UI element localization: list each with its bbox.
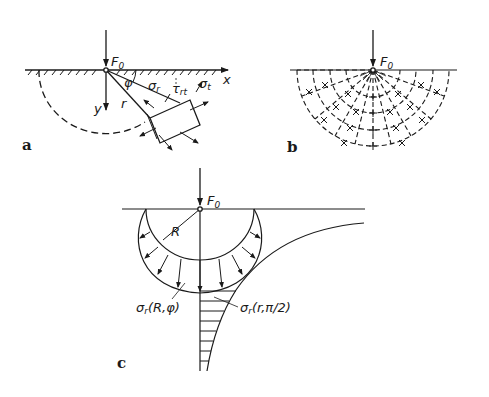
sigma-r-label: σr (148, 78, 161, 94)
angle-ray (106, 70, 180, 103)
panel-b-label: b (287, 138, 298, 156)
panel-a-labels: F0 x y r φ σr τrt σt a (22, 54, 231, 154)
y-axis-label: y (93, 101, 102, 116)
panel-b-labels: F0 b (287, 54, 393, 156)
panel-c (122, 168, 365, 371)
radius-label-c: R (171, 224, 180, 239)
panel-c-labels: F0 R σr(R,φ) σr(r,π/2) c (117, 193, 291, 372)
panel-a (25, 30, 228, 150)
force-label-b: F0 (380, 54, 393, 71)
intersection-crosses (306, 82, 440, 150)
sigma-r-circle-label: σr(R,φ) (136, 300, 180, 316)
tau-rt-label: τrt (172, 81, 188, 97)
stress-element (150, 100, 200, 143)
origin-point (104, 68, 108, 72)
sigma-r-axis-label: σr(r,π/2) (240, 300, 291, 316)
force-label-a: F0 (111, 54, 124, 71)
x-axis-label: x (222, 72, 231, 87)
figure-canvas: F0 x y r φ σr τrt σt a (0, 0, 489, 397)
radius-label: r (121, 96, 128, 111)
panel-a-label: a (22, 136, 32, 154)
panel-c-label: c (117, 354, 126, 372)
force-label-c: F0 (207, 193, 220, 210)
panel-b (290, 30, 457, 150)
axial-stress-curve (207, 223, 364, 371)
radial-lines (297, 70, 444, 146)
sigma-t-label: σt (199, 76, 211, 92)
angle-label: φ (124, 75, 133, 90)
radius-line-c (163, 209, 200, 240)
